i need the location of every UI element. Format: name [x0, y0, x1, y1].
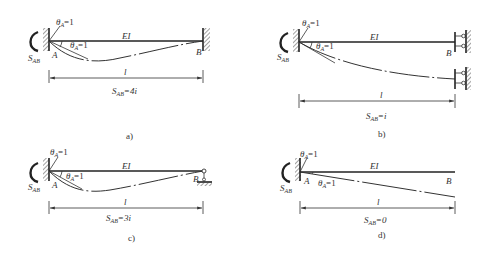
fixed-support-left: [43, 28, 49, 51]
svg-text:SAB: SAB: [277, 52, 289, 63]
moment-arrow-icon: [31, 163, 39, 182]
caption-a: a): [126, 131, 133, 141]
moment-arrow-icon: [31, 32, 39, 51]
moment-arrow-icon: [283, 163, 291, 182]
stiffness-label: EI: [121, 31, 131, 41]
panel-d: θA=1 θA=1 EI A B SAB l SAB=0 d): [280, 149, 455, 240]
svg-text:SAB: SAB: [280, 183, 292, 194]
svg-text:SAB: SAB: [28, 182, 40, 193]
guided-support: [455, 30, 471, 53]
stiffness-label: EI: [369, 161, 379, 171]
length-label: l: [380, 90, 383, 100]
length-label: l: [124, 197, 127, 207]
fixed-support-left: [293, 29, 299, 52]
result-label: SAB=0: [364, 215, 387, 226]
fixed-support-left: [43, 158, 49, 181]
caption-b: b): [378, 129, 386, 139]
node-a-label: A: [303, 176, 310, 186]
stiffness-label: EI: [369, 32, 379, 42]
length-label: l: [124, 67, 127, 77]
stiffness-label: EI: [121, 161, 131, 171]
fixed-support-right: [204, 28, 210, 51]
node-a-label: A: [51, 180, 58, 190]
node-a-label: A: [51, 50, 58, 60]
moment-arrow-icon: [281, 33, 289, 52]
svg-text:θA=1: θA=1: [316, 41, 334, 52]
caption-d: d): [378, 230, 386, 240]
svg-text:θA=1: θA=1: [300, 149, 318, 160]
svg-text:θA=1: θA=1: [50, 147, 68, 158]
length-label: l: [377, 197, 380, 207]
result-label: SAB=4i: [112, 86, 137, 97]
guided-support-deflected: [455, 67, 471, 90]
svg-text:SAB: SAB: [28, 53, 40, 64]
panel-a: θA=1 θA=1 EI A B SAB l SAB=4i a): [28, 17, 210, 141]
svg-text:θA=1: θA=1: [302, 18, 320, 29]
svg-text:θA=1: θA=1: [70, 40, 88, 51]
caption-c: c): [128, 233, 135, 243]
svg-text:θA=1: θA=1: [318, 178, 336, 189]
svg-text:θA=1: θA=1: [66, 171, 84, 182]
panel-c: θA=1 θA=1 EI A B SAB l SAB=3i c): [28, 147, 212, 243]
node-b-label: B: [446, 176, 452, 186]
svg-text:θA=1: θA=1: [56, 17, 74, 28]
node-b-label: B: [446, 48, 452, 58]
result-label: SAB=3i: [106, 213, 131, 224]
node-b-label: B: [196, 47, 202, 57]
panel-b: θA=1 θA=1 EI B SAB l SAB=i b): [277, 18, 471, 139]
node-b-label: B: [193, 174, 199, 184]
result-label: SAB=i: [366, 111, 387, 122]
